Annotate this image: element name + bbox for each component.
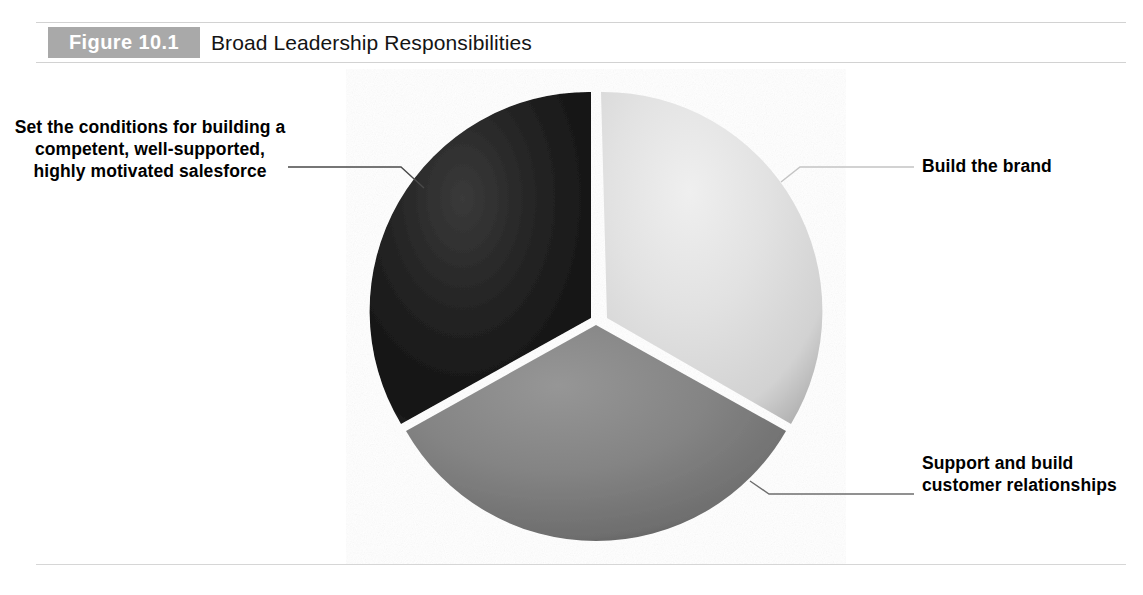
pie-chart: Set the conditions for building a compet… xyxy=(0,0,1143,595)
leader-line-customer xyxy=(750,481,914,494)
callout-label-brand: Build the brand xyxy=(922,155,1122,177)
figure-footer-rule xyxy=(36,564,1126,565)
callout-label-salesforce: Set the conditions for building a compet… xyxy=(14,116,286,182)
callout-label-customer: Support and build customer relationships xyxy=(922,452,1127,496)
pie-chart-svg xyxy=(0,0,1143,595)
leader-line-salesforce xyxy=(288,167,424,188)
leader-line-brand xyxy=(781,167,914,182)
